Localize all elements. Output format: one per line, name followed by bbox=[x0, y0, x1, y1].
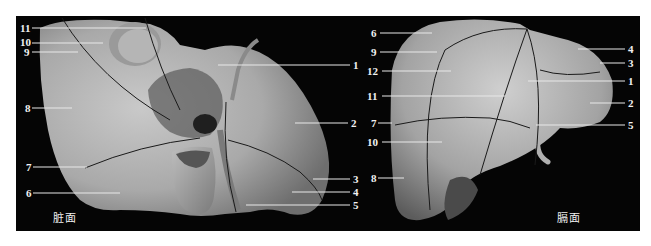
visceral-label-1: 1 bbox=[353, 60, 359, 71]
visceral-label-2: 2 bbox=[351, 118, 357, 129]
diaphragmatic-label-1: 1 bbox=[628, 76, 634, 87]
diaphragmatic-label-5: 5 bbox=[628, 120, 634, 131]
visceral-label-4: 4 bbox=[353, 187, 359, 198]
diaphragmatic-surface-caption: 膈面 bbox=[557, 213, 581, 225]
diaphragmatic-label-10: 10 bbox=[367, 137, 378, 148]
visceral-liver bbox=[40, 18, 329, 216]
diaphragmatic-label-8: 8 bbox=[371, 173, 377, 184]
visceral-label-5: 5 bbox=[353, 200, 359, 211]
liver-figure: 11 10 9 8 7 6 1 2 3 4 5 脏面 6 9 12 11 7 1… bbox=[16, 16, 640, 231]
visceral-label-7: 7 bbox=[26, 162, 32, 173]
visceral-surface-caption: 脏面 bbox=[53, 213, 77, 225]
diaphragmatic-label-7: 7 bbox=[371, 118, 377, 129]
visceral-label-11: 11 bbox=[20, 23, 30, 34]
diaphragmatic-label-2: 2 bbox=[628, 98, 634, 109]
visceral-label-9: 9 bbox=[24, 47, 30, 58]
liver-illustration bbox=[16, 16, 640, 231]
diaphragmatic-liver bbox=[391, 19, 613, 220]
diaphragmatic-label-9: 9 bbox=[371, 47, 377, 58]
visceral-label-3: 3 bbox=[353, 174, 359, 185]
diaphragmatic-label-3: 3 bbox=[628, 58, 634, 69]
diaphragmatic-label-11: 11 bbox=[367, 91, 377, 102]
diaphragmatic-label-6: 6 bbox=[371, 28, 377, 39]
visceral-label-8: 8 bbox=[25, 103, 31, 114]
visceral-label-6: 6 bbox=[26, 188, 32, 199]
diaphragmatic-label-4: 4 bbox=[628, 44, 634, 55]
diaphragmatic-label-12: 12 bbox=[367, 66, 378, 77]
